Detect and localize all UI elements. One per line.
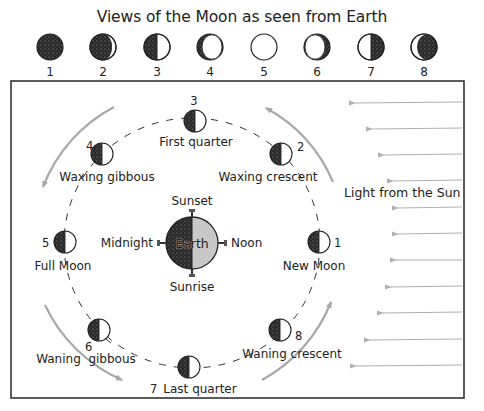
orbit-moon-7-icon — [178, 356, 200, 378]
view-1-new-moon-icon — [37, 34, 63, 60]
view-4-waxing-gibbous-icon — [197, 34, 223, 60]
orbit-moon-8-icon — [269, 319, 291, 341]
time-label-sunrise: Sunrise — [170, 280, 215, 294]
views-row: 1 2 3 4 5 6 — [37, 34, 437, 79]
orbit-moon-2-number: 2 — [297, 140, 304, 154]
view-3-number: 3 — [153, 65, 161, 79]
sunlight-label: Light from the Sun — [344, 185, 461, 200]
view-6-waning-gibbous-icon — [304, 34, 330, 60]
orbit-moon-8-label: Waning crescent — [242, 347, 342, 361]
orbit-moon-3-label: First quarter — [159, 135, 233, 149]
orbit-moon-1-icon — [308, 231, 330, 253]
orbit-moon-4-icon — [91, 143, 113, 165]
view-2-number: 2 — [99, 65, 107, 79]
view-3-first-quarter-icon — [144, 34, 170, 60]
view-4-number: 4 — [206, 65, 214, 79]
view-8-waning-crescent-icon — [411, 34, 437, 60]
view-8-number: 8 — [420, 65, 428, 79]
view-5-full-moon-icon — [251, 34, 277, 60]
orbit-moon-7-label: Last quarter — [163, 382, 236, 396]
sunlight-arrows — [355, 102, 462, 366]
orbit-moon-6-label: Waning gibbous — [36, 352, 136, 366]
orbit-moon-2-icon — [270, 143, 292, 165]
orbit-moon-8-number: 8 — [295, 329, 302, 343]
orbit-moon-3-number: 3 — [190, 94, 197, 108]
orbit-moon-7-number: 7 — [150, 382, 157, 396]
time-label-sunset: Sunset — [171, 194, 212, 208]
orbit-moon-1-number: 1 — [334, 236, 341, 250]
view-1-number: 1 — [46, 65, 54, 79]
earth-label: Earth — [175, 236, 209, 251]
view-7-last-quarter-icon — [358, 34, 384, 60]
view-7-number: 7 — [367, 65, 375, 79]
orbit-moon-4-label: Waxing gibbous — [59, 170, 154, 184]
orbit-moon-3-icon — [184, 110, 206, 132]
orbit-moon-5-icon — [54, 231, 76, 253]
orbit-moon-4-number: 4 — [86, 139, 93, 153]
view-5-number: 5 — [260, 65, 268, 79]
orbit-moon-2-label: Waxing crescent — [218, 170, 317, 184]
orbit-moon-5-label: Full Moon — [35, 259, 92, 273]
time-label-noon: Noon — [231, 236, 262, 250]
moon-phases-diagram: 1 2 3 4 5 6 — [0, 0, 484, 411]
orbit-moon-1-label: New Moon — [283, 259, 346, 273]
orbit-moon-5-number: 5 — [42, 236, 49, 250]
time-label-midnight: Midnight — [101, 236, 153, 250]
view-6-number: 6 — [313, 65, 321, 79]
view-2-waxing-crescent-icon — [90, 34, 116, 60]
